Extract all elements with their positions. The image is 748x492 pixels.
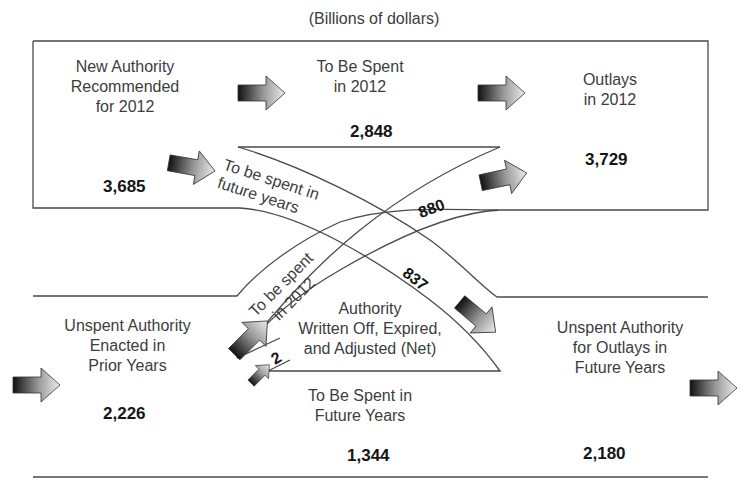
budget-flow-diagram: (Billions of dollars) New Authority Reco… <box>0 0 748 492</box>
arrow-right-icon <box>238 76 285 110</box>
to-be-spent-2012-value: 2,848 <box>350 122 393 142</box>
new-authority-value: 3,685 <box>103 177 146 197</box>
arrow-right-icon <box>477 156 530 199</box>
diagram-subtitle: (Billions of dollars) <box>0 9 748 29</box>
outlays-2012-label: Outlays in 2012 <box>560 70 660 110</box>
unspent-future-value: 2,180 <box>583 444 626 464</box>
unspent-prior-value: 2,226 <box>103 404 146 424</box>
to-be-spent-future-label: To Be Spent in Future Years <box>290 386 430 426</box>
unspent-future-label: Unspent Authority for Outlays in Future … <box>525 318 715 378</box>
outlays-2012-value: 3,729 <box>585 150 628 170</box>
unspent-prior-label: Unspent Authority Enacted in Prior Years <box>40 316 215 376</box>
written-off-label: Authority Written Off, Expired, and Adju… <box>285 299 455 359</box>
to-be-spent-2012-label: To Be Spent in 2012 <box>300 57 420 97</box>
new-authority-label: New Authority Recommended for 2012 <box>55 57 195 117</box>
arrow-diagonal-up-icon <box>244 358 276 390</box>
arrow-right-icon <box>478 76 525 110</box>
arrow-right-icon <box>166 146 218 188</box>
to-be-spent-future-value: 1,344 <box>347 446 390 466</box>
